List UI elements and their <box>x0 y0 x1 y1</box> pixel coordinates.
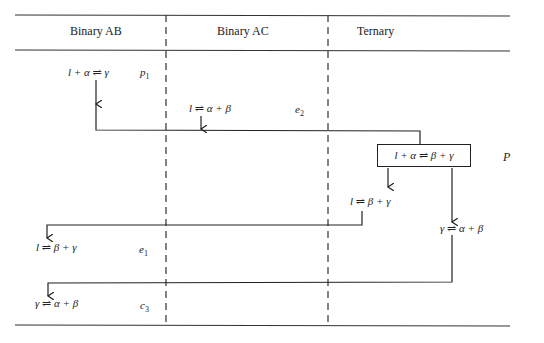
reaction-e1-label: e1 <box>139 243 148 258</box>
reaction-ternary-right-equation: γ ⇌ α + β <box>440 222 483 235</box>
reaction-p1-label: p1 <box>140 66 150 81</box>
reaction-P-label: P <box>503 150 510 165</box>
reaction-e2-equation: l ⇌ α + β <box>189 102 231 115</box>
reaction-e1-equation: l ⇌ β + γ <box>36 241 77 254</box>
diagram-lines <box>0 0 544 343</box>
reaction-c3-equation: γ ⇌ α + β <box>35 297 78 310</box>
reaction-ternary-left-equation: l ⇌ β + γ <box>350 195 391 208</box>
column-header-binary-ab: Binary AB <box>70 24 122 39</box>
column-header-ternary: Ternary <box>357 24 394 39</box>
reaction-c3-label: c3 <box>140 299 149 314</box>
reaction-P-box: l + α ⇌ β + γ <box>377 144 471 167</box>
reaction-p1-equation: l + α ⇌ γ <box>68 66 109 79</box>
column-header-binary-ac: Binary AC <box>217 24 269 39</box>
reaction-e2-label: e2 <box>295 103 304 118</box>
